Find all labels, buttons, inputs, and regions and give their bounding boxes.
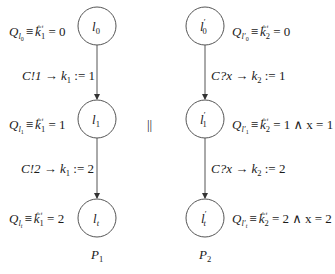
parallel-composition-operator: || xyxy=(147,117,152,132)
edge-label-l1-lt: C!2 → k1 := 2 xyxy=(21,161,94,178)
process-name-p1: P1 xyxy=(90,247,103,264)
def-marker: def xyxy=(37,117,44,122)
predicate-lt-prime: Ql′t≡k2 = 2 ∧ x = 2 xyxy=(232,211,332,229)
edge-label-l1p-ltp: C?x → k2 := 2 xyxy=(211,161,285,178)
def-marker: def xyxy=(261,211,268,216)
automata-diagram: l0 l1 lt Ql0≡k1 = 0 def Ql1≡k1 = 1 def Q… xyxy=(0,0,335,274)
state-lt-prime-label: l′t xyxy=(201,209,207,228)
edge-label-l0-l1: C!1 → k1 := 1 xyxy=(22,68,95,85)
edge-label-l0p-l1p: C?x → k2 := 1 xyxy=(211,68,285,85)
process-p1: l0 l1 lt Ql0≡k1 = 0 def Ql1≡k1 = 1 def Q… xyxy=(9,7,116,264)
process-p2: l′0 l′1 l′t Ql′0≡k2 = 0 def Ql′1≡k2 = 1 … xyxy=(186,7,333,264)
process-name-p2: P2 xyxy=(198,247,211,264)
def-marker: def xyxy=(36,211,43,216)
predicate-l1-prime: Ql′1≡k2 = 1 ∧ x = 1 xyxy=(232,117,333,135)
def-marker: def xyxy=(262,24,269,29)
def-marker: def xyxy=(37,24,44,29)
def-marker: def xyxy=(262,117,269,122)
